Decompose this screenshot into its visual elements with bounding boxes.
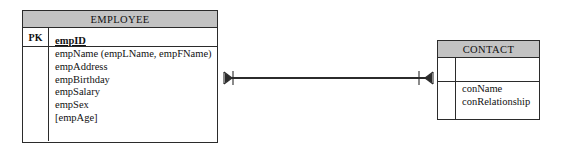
entity-employee-primary-key: empID	[55, 35, 86, 46]
entity-contact-key-row	[438, 58, 539, 82]
entity-contact[interactable]: CONTACT conName conRelationship	[437, 40, 540, 120]
relationship-connector-employee-contact[interactable]	[218, 62, 446, 96]
attribute-item: empAddress	[55, 61, 217, 74]
attribute-item: [empAge]	[55, 112, 217, 125]
entity-contact-body: conName conRelationship	[438, 58, 539, 119]
entity-employee[interactable]: EMPLOYEE PK empID empName (empLName, emp…	[22, 10, 218, 143]
entity-employee-title: EMPLOYEE	[23, 11, 217, 28]
attribute-item: conRelationship	[462, 96, 539, 109]
entity-employee-key-label: PK	[23, 28, 49, 46]
attribute-item: empSalary	[55, 86, 217, 99]
attribute-item: empSex	[55, 99, 217, 112]
entity-contact-pk-cell	[456, 58, 539, 81]
attribute-item: empName (empLName, empFName)	[55, 48, 217, 61]
attribute-item: conName	[462, 83, 539, 96]
entity-employee-body: PK empID empName (empLName, empFName) em…	[23, 28, 217, 141]
crows-foot-left-fill	[225, 73, 232, 83]
entity-employee-pk-cell: empID	[49, 28, 217, 46]
crows-foot-right-fill	[425, 73, 432, 83]
entity-employee-key-row: PK empID	[23, 28, 217, 47]
entity-contact-title: CONTACT	[438, 41, 539, 58]
entity-employee-attribute-row: empName (empLName, empFName) empAddress …	[23, 47, 217, 141]
entity-employee-attr-key-col	[23, 47, 49, 141]
entity-employee-attribute-list: empName (empLName, empFName) empAddress …	[49, 47, 217, 141]
er-diagram-canvas: EMPLOYEE PK empID empName (empLName, emp…	[0, 0, 562, 159]
entity-contact-attribute-row: conName conRelationship	[438, 82, 539, 119]
entity-contact-attribute-list: conName conRelationship	[456, 82, 539, 119]
attribute-item: empBirthday	[55, 74, 217, 87]
